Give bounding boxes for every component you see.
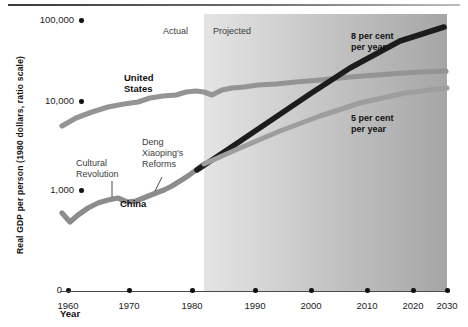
chart-figure: Real GDP per person (1980 dollars, ratio…	[0, 0, 468, 327]
china-text: China	[120, 198, 146, 209]
series-label-united-states-line1: United	[124, 72, 154, 83]
series-line-five-percent	[204, 88, 447, 164]
eight-percent-line2: per year	[351, 42, 394, 53]
annotation-eight-percent: 8 per cent per year	[351, 31, 394, 53]
region-label-actual: Actual	[163, 26, 188, 37]
cultural-revolution-line1: Cultural	[76, 158, 119, 169]
five-percent-line1: 5 per cent	[351, 113, 394, 124]
cultural-revolution-line2: Revolution	[76, 169, 119, 180]
series-label-united-states: United States	[124, 72, 154, 94]
eight-percent-line1: 8 per cent	[351, 31, 394, 42]
annotation-five-percent: 5 per cent per year	[351, 113, 394, 135]
deng-reforms-line1: Deng	[142, 137, 183, 148]
five-percent-line2: per year	[351, 124, 394, 135]
series-label-china: China	[120, 198, 146, 209]
actual-text: Actual	[163, 26, 188, 36]
plot-area	[0, 0, 468, 327]
deng-reforms-line3: Reforms	[142, 159, 183, 170]
series-label-united-states-line2: States	[124, 83, 154, 94]
deng-reforms-line2: Xiaoping's	[142, 148, 183, 159]
annotation-cultural-revolution: Cultural Revolution	[76, 158, 119, 180]
projected-text: Projected	[213, 26, 251, 36]
region-label-projected: Projected	[213, 26, 251, 37]
annotation-deng-reforms: Deng Xiaoping's Reforms	[142, 137, 183, 170]
